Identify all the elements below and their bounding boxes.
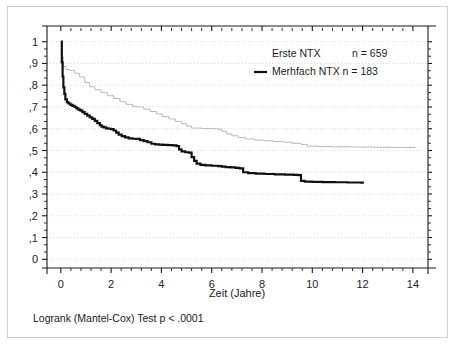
y-tick-label: ,1 [29,232,38,244]
x-tick-label: 14 [407,278,419,290]
x-tick-label: 12 [356,278,368,290]
x-tick-label: 10 [306,278,318,290]
x-axis-ticks [61,268,413,273]
y-tick-label: ,8 [29,79,38,91]
y-tick-label: ,9 [29,57,38,69]
y-tick-label: ,6 [29,123,38,135]
y-axis-ticks [42,42,47,260]
y-tick-label: ,7 [29,101,38,113]
legend-count-erste-ntx: n = 659 [352,47,387,59]
y-tick-label: ,5 [29,145,38,157]
x-tick-label: 0 [58,278,64,290]
y-tick-label: ,4 [29,166,38,178]
y-axis-ticks-right [428,42,432,260]
y-tick-label: 1 [32,36,38,48]
x-axis-ticks-top [61,26,413,31]
y-tick-label: ,3 [29,188,38,200]
legend-label-erste-ntx: Erste NTX [272,47,320,59]
x-tick-label: 4 [158,278,164,290]
x-axis-title: Zeit (Jahre) [209,287,265,299]
figure-page: 0,1,2,3,4,5,6,7,8,91 02468101214 Erste N… [0,0,457,346]
y-tick-label: ,2 [29,210,38,222]
y-axis-tick-labels: 0,1,2,3,4,5,6,7,8,91 [29,36,38,266]
figure-caption: Logrank (Mantel-Cox) Test p < .0001 [33,312,204,324]
y-tick-label: 0 [32,253,38,265]
legend-label-mehrfach-ntx: Merhfach NTX n = 183 [272,65,378,77]
x-tick-label: 2 [108,278,114,290]
survival-chart: 0,1,2,3,4,5,6,7,8,91 02468101214 Erste N… [0,0,457,346]
